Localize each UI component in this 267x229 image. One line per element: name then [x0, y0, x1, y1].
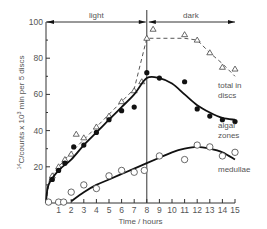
fit-line	[46, 77, 235, 203]
triangle-marker	[219, 64, 225, 69]
x-tick-label: 14	[218, 205, 228, 215]
x-tick-label: 5	[107, 205, 112, 215]
open-circle-marker	[156, 153, 162, 159]
open-circle-marker	[141, 167, 147, 173]
open-circle-marker	[60, 199, 66, 205]
series-layer	[45, 26, 238, 205]
label-algal-zones: zones	[218, 131, 239, 140]
filled-circle-marker	[195, 106, 200, 111]
x-tick-label: 2	[69, 205, 74, 215]
triangle-marker	[207, 50, 213, 55]
open-circle-marker	[232, 149, 238, 155]
x-tick-label: 11	[180, 205, 189, 215]
filled-circle-marker	[94, 130, 99, 135]
open-circle-marker	[194, 142, 200, 148]
filled-circle-marker	[81, 142, 86, 147]
label-total-in-discs: total in	[218, 81, 242, 90]
x-tick-label: 15	[230, 205, 240, 215]
x-tick-label: 4	[94, 205, 99, 215]
chart: 20406080100123456789101112131415 Time / …	[0, 0, 267, 229]
open-circle-marker	[118, 167, 124, 173]
y-tick-label: 20	[34, 162, 44, 172]
labels: Time / hours14C/counts x 103 min per 5 d…	[16, 11, 251, 226]
filled-circle-marker	[50, 177, 55, 182]
open-circle-marker	[45, 199, 51, 205]
x-tick-label: 6	[119, 205, 124, 215]
x-axis-title: Time / hours	[118, 217, 162, 226]
filled-circle-marker	[157, 76, 162, 81]
series-medullae	[45, 142, 238, 205]
triangle-marker	[73, 131, 79, 136]
triangle-marker	[182, 32, 188, 37]
filled-circle-marker	[119, 108, 124, 113]
open-circle-marker	[68, 189, 74, 195]
open-circle-marker	[219, 153, 225, 159]
filled-circle-marker	[132, 104, 137, 109]
triangle-marker	[150, 26, 156, 31]
fit-line	[46, 38, 235, 203]
y-tick-label: 80	[34, 53, 44, 63]
label-algal-zones: algal	[218, 121, 235, 130]
y-tick-label: 60	[34, 89, 44, 99]
triangle-marker	[68, 151, 74, 156]
open-circle-marker	[131, 169, 137, 175]
open-circle-marker	[181, 156, 187, 162]
filled-circle-marker	[71, 144, 76, 149]
triangle-marker	[232, 66, 238, 71]
dark-range-arrowhead-left	[149, 20, 156, 24]
open-circle-marker	[81, 182, 87, 188]
x-tick-label: 12	[192, 205, 202, 215]
filled-circle-marker	[207, 114, 212, 119]
x-tick-label: 7	[132, 205, 137, 215]
triangle-marker	[93, 124, 99, 129]
filled-circle-marker	[62, 161, 67, 166]
x-tick-label: 1	[56, 205, 61, 215]
light-range-arrowhead-right	[139, 20, 146, 24]
x-tick-label: 9	[157, 205, 162, 215]
open-circle-marker	[207, 144, 213, 150]
y-axis-title: 14C/counts x 103 min per 5 discs	[16, 55, 26, 169]
filled-circle-marker	[182, 79, 187, 84]
y-tick-label: 40	[34, 126, 44, 136]
filled-circle-marker	[144, 70, 149, 75]
dark-label: dark	[183, 11, 200, 20]
x-tick-label: 13	[205, 205, 215, 215]
dark-range-arrowhead-right	[228, 20, 235, 24]
open-circle-marker	[93, 185, 99, 191]
x-tick-label: 8	[144, 205, 149, 215]
fit-line	[71, 147, 235, 201]
triangle-marker	[144, 35, 150, 40]
light-range-arrowhead-left	[47, 20, 54, 24]
open-circle-marker	[106, 173, 112, 179]
light-label: light	[89, 11, 104, 20]
y-tick-label: 100	[29, 17, 43, 27]
filled-circle-marker	[56, 168, 61, 173]
x-tick-label: 10	[167, 205, 177, 215]
filled-circle-marker	[106, 117, 111, 122]
x-tick-label: 3	[81, 205, 86, 215]
label-medullae: medullae	[218, 165, 251, 174]
label-total-in-discs: discs	[218, 91, 236, 100]
